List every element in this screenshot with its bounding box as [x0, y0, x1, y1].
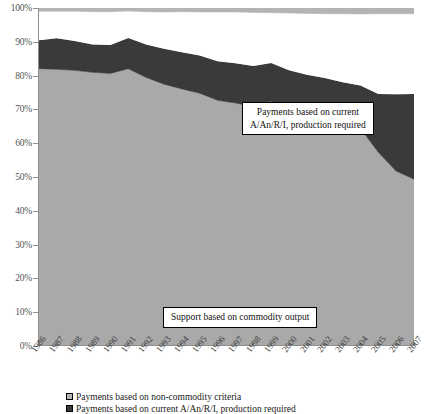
- annotation-lower-line1: Support based on commodity output: [171, 311, 309, 324]
- legend-swatch-icon-1: [66, 405, 73, 412]
- legend-item-0[interactable]: Payments based on non-commodity criteria: [66, 391, 406, 403]
- y-tick-label-100: 100%: [11, 3, 32, 13]
- legend-item-1[interactable]: Payments based on current A/An/R/I, prod…: [66, 403, 406, 414]
- legend-swatch-icon-0: [66, 393, 73, 400]
- y-tick-label-10: 10%: [15, 307, 32, 317]
- y-tick-label-70: 70%: [15, 104, 32, 114]
- y-tick-label-30: 30%: [15, 240, 32, 250]
- area-series-svg: [39, 8, 414, 345]
- annotation-commodity-output: Support based on commodity output: [163, 307, 317, 328]
- legend-label-1: Payments based on current A/An/R/I, prod…: [76, 403, 296, 414]
- annotation-current-payments: Payments based on current A/An/R/I, prod…: [242, 102, 374, 135]
- plot-area: Payments based on current A/An/R/I, prod…: [38, 8, 414, 346]
- y-axis: 0%10%20%30%40%50%60%70%80%90%100%: [0, 0, 38, 346]
- y-tick-label-50: 50%: [15, 172, 32, 182]
- y-tick-label-60: 60%: [15, 138, 32, 148]
- annotation-upper-line1: Payments based on current: [250, 106, 366, 119]
- y-tick-label-20: 20%: [15, 273, 32, 283]
- y-tick-label-40: 40%: [15, 206, 32, 216]
- annotation-upper-line2: A/An/R/I, production required: [250, 119, 366, 132]
- y-tick-label-90: 90%: [15, 37, 32, 47]
- legend: Payments based on non-commodity criteria…: [66, 391, 406, 414]
- x-axis: 1986198719881989199019911992199319941995…: [38, 346, 414, 392]
- y-tick-label-80: 80%: [15, 71, 32, 81]
- legend-label-0: Payments based on non-commodity criteria: [76, 391, 241, 403]
